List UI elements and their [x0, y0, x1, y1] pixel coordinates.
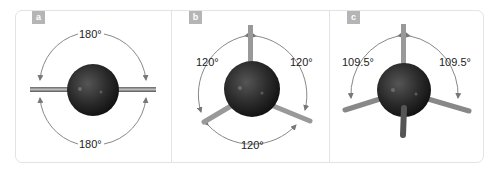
panel-a-linear: 180° 180° [30, 28, 156, 150]
angle-label: 120° [290, 56, 313, 68]
angle-label: 120° [241, 139, 264, 151]
panel-c-tetrahedral: 109.5° 109.5° [342, 24, 471, 135]
molecular-geometry-diagram: 180° 180° 120° 120° 120° 109.5° 109.5° [0, 0, 494, 172]
panel-b-trigonal: 120° 120° 120° [196, 25, 313, 151]
angle-label: 120° [196, 56, 219, 68]
angle-label: 109.5° [439, 56, 471, 68]
angle-label: 109.5° [342, 56, 374, 68]
angle-label: 180° [79, 28, 102, 40]
angle-label: 180° [79, 138, 102, 150]
